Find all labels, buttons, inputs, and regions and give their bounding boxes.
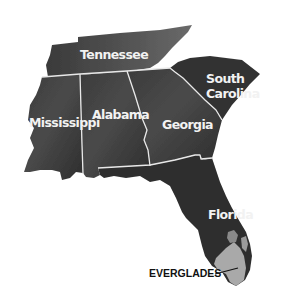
label-georgia: Georgia [162,117,213,132]
label-south-carolina-line2: Carolina [206,86,260,101]
southeast-us-map: Tennessee South Carolina Mississippi Ala… [0,0,283,307]
label-florida: Florida [208,207,253,222]
label-everglades: EVERGLADES [149,267,221,279]
label-alabama: Alabama [92,107,149,122]
label-mississippi: Mississippi [29,115,100,130]
label-south-carolina-line1: South [206,71,244,86]
label-tennessee: Tennessee [80,47,148,62]
